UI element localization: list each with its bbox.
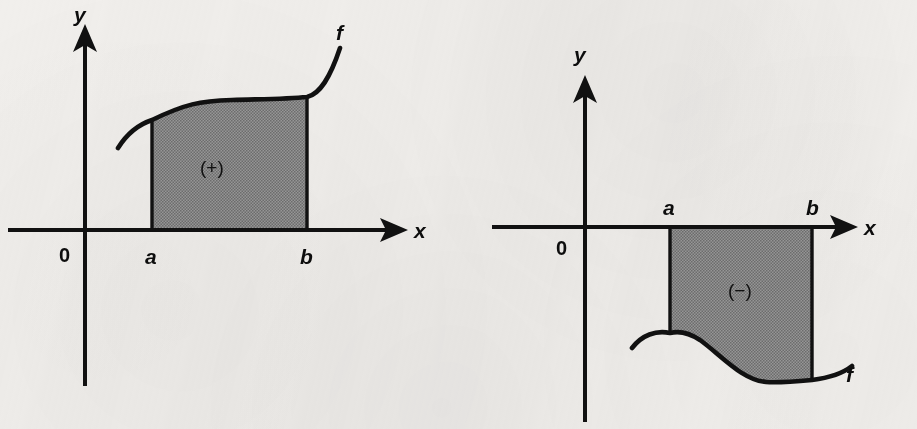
x-axis-label-left: x xyxy=(413,219,427,242)
sign-label-positive: (+) xyxy=(200,157,224,178)
origin-label-right: 0 xyxy=(556,237,567,259)
y-axis-right xyxy=(573,75,597,422)
y-axis-label-right: y xyxy=(573,43,587,66)
y-axis-label-left: y xyxy=(73,3,87,26)
figure-canvas: y x f 0 a b (+) xyxy=(0,0,917,429)
lower-limit-label-left: a xyxy=(145,245,157,268)
upper-limit-label-right: b xyxy=(806,196,819,219)
x-axis-label-right: x xyxy=(863,216,877,239)
lower-limit-label-right: a xyxy=(663,196,675,219)
sign-label-negative: (−) xyxy=(728,280,752,301)
positive-area-panel: y x f 0 a b (+) xyxy=(0,0,460,429)
origin-label-left: 0 xyxy=(59,244,70,266)
upper-limit-label-left: b xyxy=(300,245,313,268)
y-axis-left xyxy=(73,24,97,386)
shaded-region-positive xyxy=(152,97,307,230)
negative-area-panel: y x f 0 a b (−) xyxy=(460,0,917,429)
curve-label-f-left: f xyxy=(336,21,345,44)
shaded-region-negative xyxy=(670,227,812,382)
